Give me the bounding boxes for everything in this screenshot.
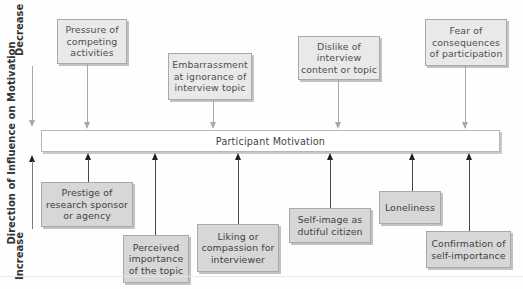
- arrow-line-pressure: [87, 64, 88, 122]
- arrow-line-liking: [238, 159, 239, 225]
- axis-title: Direction of Influence on Motivation: [6, 38, 20, 248]
- factor-prestige-of-research-sponsor: Prestige of research sponsor or agency: [41, 182, 133, 227]
- arrow-down-icon: [335, 122, 341, 129]
- factor-pressure-of-competing-activities: Pressure of competing activities: [57, 19, 127, 64]
- arrow-line-self-image: [330, 159, 331, 209]
- axis-increase-label: Increase: [14, 230, 28, 280]
- arrow-line-dislike: [338, 80, 339, 122]
- diagram-canvas: Decrease Direction of Influence on Motiv…: [0, 0, 523, 289]
- axis-decrease-line: [32, 66, 33, 122]
- arrow-line-embarrassment: [213, 100, 214, 122]
- axis-decrease-arrow-icon: [29, 120, 35, 127]
- factor-embarrassment-at-ignorance: Embarrassment at ignorance of interview …: [168, 53, 252, 100]
- arrow-line-perceived-importance: [155, 159, 156, 236]
- factor-confirmation-of-self-importance: Confirmation of self-importance: [426, 231, 511, 268]
- participant-motivation-box: Participant Motivation: [41, 130, 500, 152]
- factor-liking-or-compassion: Liking or compassion for interviewer: [197, 224, 279, 272]
- arrow-down-icon: [210, 122, 216, 129]
- arrow-down-icon: [462, 122, 468, 129]
- factor-self-image-dutiful-citizen: Self-image as dutiful citizen: [289, 208, 371, 243]
- arrow-line-fear: [465, 66, 466, 122]
- arrow-down-icon: [84, 122, 90, 129]
- arrow-line-loneliness: [412, 159, 413, 191]
- arrow-line-prestige: [88, 159, 89, 183]
- arrow-line-confirmation: [469, 159, 470, 232]
- bottom-divider: [0, 276, 523, 277]
- factor-fear-of-consequences: Fear of consequences of participation: [425, 19, 507, 66]
- factor-dislike-of-interview-content: Dislike of interview content or topic: [298, 36, 380, 80]
- axis-increase-line: [32, 161, 33, 229]
- factor-loneliness: Loneliness: [379, 191, 441, 224]
